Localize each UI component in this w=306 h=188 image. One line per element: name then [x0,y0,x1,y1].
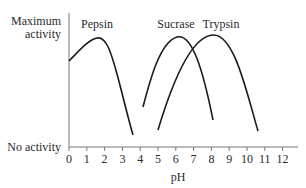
trypsin-label: Trypsin [203,17,240,31]
tick-label: 6 [173,152,179,166]
tick-label: 7 [191,152,197,166]
tick-label: 11 [259,152,271,166]
sucrase-curve [143,37,213,120]
tick-label: 12 [277,152,289,166]
tick-label: 10 [241,152,253,166]
tick-label: 2 [102,152,108,166]
y-axis-top-label-line1: Maximum [11,14,62,28]
tick-label: 8 [208,152,214,166]
tick-label: 3 [119,152,125,166]
tick-label: 1 [84,152,90,166]
x-axis-tick-labels: 0 1 2 3 4 5 6 7 8 9 10 11 12 [66,152,289,166]
pepsin-label: Pepsin [81,17,113,31]
y-axis-top-label-line2: activity [25,27,61,41]
tick-label: 5 [155,152,161,166]
sucrase-label: Sucrase [157,17,194,31]
trypsin-curve [158,35,258,131]
enzyme-activity-chart: 0 1 2 3 4 5 6 7 8 9 10 11 12 pH Maximum … [0,0,306,188]
x-axis-ticks [69,147,283,151]
tick-label: 0 [66,152,72,166]
tick-label: 4 [137,152,143,166]
y-axis-bottom-label: No activity [7,140,61,154]
pepsin-curve [69,38,133,135]
x-axis-label: pH [171,170,186,184]
tick-label: 9 [226,152,232,166]
